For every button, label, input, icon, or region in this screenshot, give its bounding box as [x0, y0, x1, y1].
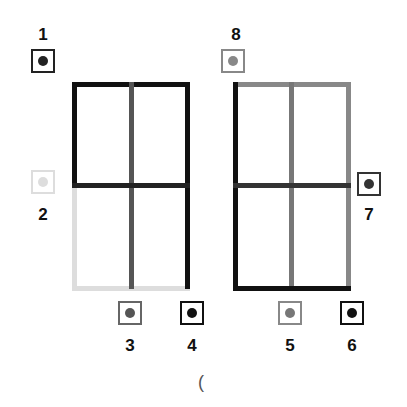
right-grid-middle-horizontal: [233, 183, 351, 188]
left-grid-left-lower-edge: [72, 187, 77, 290]
marker-8-box[interactable]: [221, 49, 245, 73]
marker-4-label: 4: [180, 336, 204, 356]
marker-5-label: 5: [278, 336, 302, 356]
marker-1-box[interactable]: [31, 49, 55, 73]
marker-3-box[interactable]: [118, 301, 142, 325]
marker-5-box[interactable]: [278, 301, 302, 325]
right-grid-bottom-edge: [233, 286, 351, 291]
marker-6-label: 6: [340, 336, 364, 356]
marker-1-label: 1: [31, 25, 55, 45]
marker-2-label: 2: [31, 205, 55, 225]
marker-7-box[interactable]: [357, 172, 381, 196]
marker-7-dot: [364, 179, 374, 189]
marker-8-label: 8: [224, 25, 248, 45]
marker-6-box[interactable]: [340, 301, 364, 325]
footer-paren: (: [198, 372, 204, 393]
marker-1-dot: [38, 56, 48, 66]
marker-4-dot: [187, 308, 197, 318]
marker-2-box[interactable]: [31, 170, 55, 194]
left-grid-left-upper-edge: [72, 82, 77, 187]
marker-7-label: 7: [357, 205, 381, 225]
marker-3-dot: [125, 308, 135, 318]
marker-2-dot: [38, 177, 48, 187]
left-grid-middle-horizontal: [72, 183, 190, 188]
marker-6-dot: [347, 308, 357, 318]
marker-5-dot: [285, 308, 295, 318]
marker-4-box[interactable]: [180, 301, 204, 325]
marker-8-dot: [228, 56, 238, 66]
marker-3-label: 3: [118, 336, 142, 356]
